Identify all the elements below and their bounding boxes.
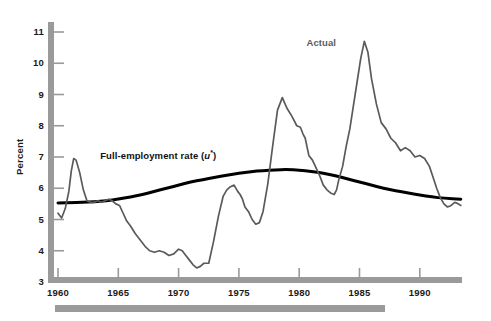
x-tick-marks — [58, 268, 420, 278]
y-tick-label-9: 9 — [22, 89, 44, 100]
y-tick-label-3: 3 — [22, 276, 44, 287]
y-axis-bar — [48, 22, 54, 283]
series-label-actual: Actual — [306, 37, 336, 48]
x-axis-bar — [48, 277, 462, 283]
y-tick-label-5: 5 — [22, 214, 44, 225]
x-tick-label-1980: 1980 — [279, 287, 319, 298]
y-tick-label-4: 4 — [22, 245, 44, 256]
y-tick-label-11: 11 — [22, 26, 44, 37]
series-line-full-employment-rate — [58, 170, 461, 203]
unemployment-rate-chart: Percent 34567891011 19601965197019751980… — [0, 0, 491, 321]
x-tick-label-1960: 1960 — [38, 287, 78, 298]
y-tick-label-10: 10 — [22, 57, 44, 68]
y-tick-label-7: 7 — [22, 151, 44, 162]
chart-canvas — [0, 0, 491, 321]
x-tick-label-1975: 1975 — [219, 287, 259, 298]
y-tick-marks — [54, 32, 64, 282]
x-tick-label-1970: 1970 — [159, 287, 199, 298]
footer-bar — [55, 305, 385, 312]
x-tick-label-1990: 1990 — [400, 287, 440, 298]
x-tick-label-1985: 1985 — [339, 287, 379, 298]
series-label-full-employment-rate: Full-employment rate (u*) — [100, 149, 216, 161]
y-tick-label-6: 6 — [22, 182, 44, 193]
y-tick-label-8: 8 — [22, 120, 44, 131]
x-tick-label-1965: 1965 — [98, 287, 138, 298]
